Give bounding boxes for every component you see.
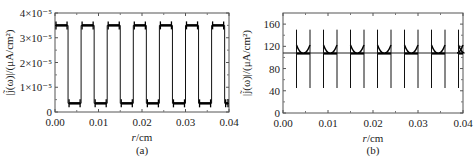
y-axis-title: |j̃(ω)|/(μA/cm²) xyxy=(240,30,253,96)
x-tick-label: 0.02 xyxy=(132,116,151,128)
panel-label: (a) xyxy=(136,144,149,157)
x-tick-label: 0.02 xyxy=(363,117,382,129)
x-tick-label: 0.01 xyxy=(318,117,337,129)
data-series xyxy=(55,21,229,107)
y-tick-label: 1×10⁻⁵ xyxy=(20,81,53,93)
figure: 0.000.010.020.030.0401×10⁻⁵2×10⁻⁵3×10⁻⁵4… xyxy=(0,0,475,162)
data-series xyxy=(283,30,465,88)
y-tick-label: 0 xyxy=(47,106,53,118)
x-tick-label: 0.03 xyxy=(176,116,196,128)
y-tick-label: 160 xyxy=(264,18,281,30)
y-tick-label: 80 xyxy=(269,63,281,75)
panel-label: (b) xyxy=(367,144,380,157)
x-tick-label: 0.04 xyxy=(219,116,239,128)
x-tick-label: 0.01 xyxy=(89,116,108,128)
chart-panel-b: 0.000.010.020.030.0404080120160r/cm|j̃(ω… xyxy=(240,13,473,157)
y-tick-label: 3×10⁻⁵ xyxy=(20,32,53,44)
y-tick-label: 40 xyxy=(269,85,281,97)
chart-panel-a: 0.000.010.020.030.0401×10⁻⁵2×10⁻⁵3×10⁻⁵4… xyxy=(3,7,239,157)
y-tick-label: 4×10⁻⁵ xyxy=(20,7,53,19)
x-tick-label: 0.04 xyxy=(453,117,473,129)
y-tick-label: 2×10⁻⁵ xyxy=(20,57,53,69)
x-axis-title: r/cm xyxy=(132,131,153,143)
x-axis-title: r/cm xyxy=(363,132,384,144)
y-tick-label: 120 xyxy=(264,40,281,52)
y-axis-title: |j̃(ω)|/(μA/cm²) xyxy=(3,29,16,95)
y-tick-label: 0 xyxy=(275,107,281,119)
x-tick-label: 0.03 xyxy=(408,117,428,129)
